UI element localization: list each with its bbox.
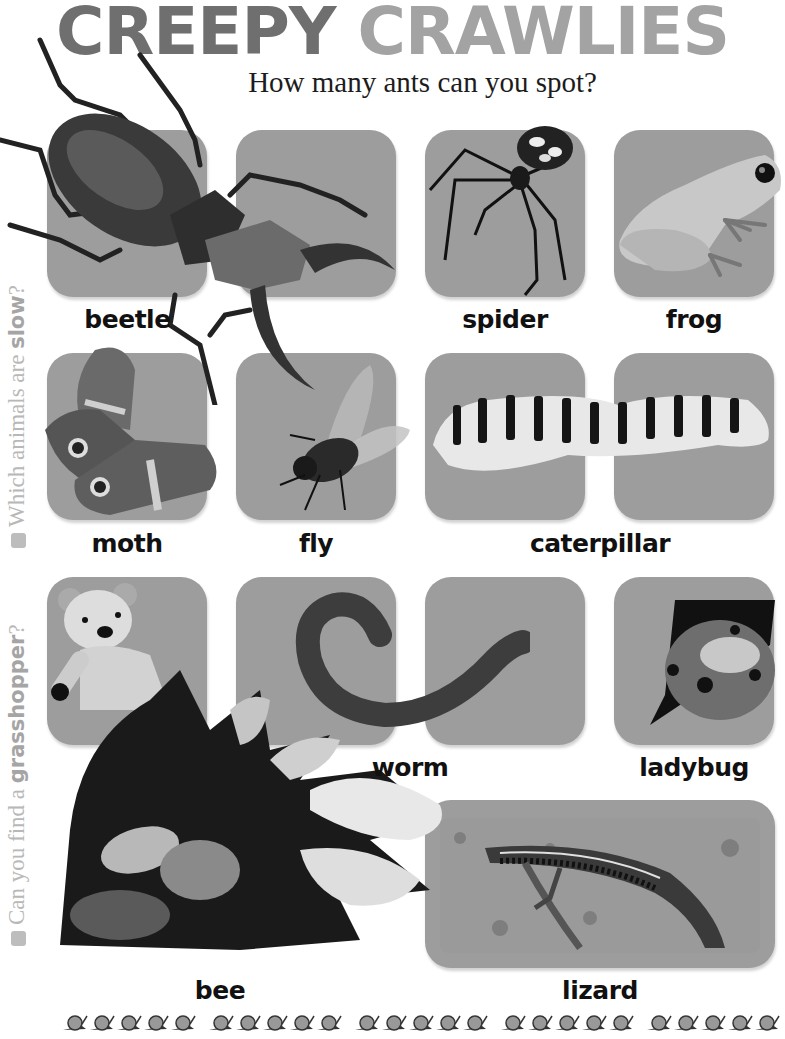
snail-icon bbox=[673, 1014, 699, 1032]
snail-icon bbox=[700, 1014, 726, 1032]
snail-icon bbox=[289, 1014, 315, 1032]
snail-icon bbox=[143, 1014, 169, 1032]
side-q-bold: grasshopper bbox=[5, 635, 29, 784]
snail-icon bbox=[646, 1014, 672, 1032]
snail-icon bbox=[754, 1014, 780, 1032]
snail-icon bbox=[62, 1014, 88, 1032]
label-worm: worm bbox=[330, 753, 490, 782]
snail-icon bbox=[354, 1014, 380, 1032]
snail-icon bbox=[727, 1014, 753, 1032]
fly-image bbox=[275, 360, 415, 520]
label-fly: fly bbox=[236, 529, 396, 558]
snail-icon bbox=[581, 1014, 607, 1032]
snail-icon bbox=[408, 1014, 434, 1032]
snail-icon bbox=[435, 1014, 461, 1032]
snail-group bbox=[646, 1014, 780, 1032]
snail-group bbox=[208, 1014, 342, 1032]
side-q-end: ? bbox=[4, 624, 29, 634]
snail-icon bbox=[316, 1014, 342, 1032]
snail-icon bbox=[116, 1014, 142, 1032]
bullet-square-icon bbox=[11, 931, 26, 946]
snail-icon bbox=[89, 1014, 115, 1032]
label-frog: frog bbox=[614, 305, 774, 334]
snail-icon bbox=[608, 1014, 634, 1032]
caterpillar-image bbox=[428, 380, 773, 480]
spider-image bbox=[425, 120, 590, 300]
snail-group bbox=[354, 1014, 488, 1032]
snail-icon bbox=[381, 1014, 407, 1032]
snail-icon bbox=[500, 1014, 526, 1032]
worm-image bbox=[295, 590, 530, 730]
snail-icon bbox=[527, 1014, 553, 1032]
snail-group bbox=[500, 1014, 634, 1032]
moth-image bbox=[40, 340, 225, 530]
snail-border bbox=[62, 1014, 780, 1032]
ladybug-image bbox=[645, 595, 780, 730]
label-ladybug: ladybug bbox=[614, 753, 774, 782]
label-beetle: beetle bbox=[65, 305, 190, 334]
label-moth: moth bbox=[47, 529, 207, 558]
side-question-grasshopper: Can you find a grasshopper? bbox=[4, 624, 30, 946]
snail-group bbox=[62, 1014, 196, 1032]
lizard-image bbox=[440, 818, 760, 953]
label-spider: spider bbox=[425, 305, 585, 334]
label-caterpillar: caterpillar bbox=[425, 529, 775, 558]
label-lizard: lizard bbox=[425, 976, 775, 1005]
snail-icon bbox=[554, 1014, 580, 1032]
label-bee: bee bbox=[140, 976, 300, 1005]
snail-icon bbox=[235, 1014, 261, 1032]
snail-icon bbox=[170, 1014, 196, 1032]
snail-icon bbox=[208, 1014, 234, 1032]
bullet-square-icon bbox=[11, 533, 26, 548]
snail-icon bbox=[262, 1014, 288, 1032]
side-q-text: Can you find a bbox=[4, 783, 29, 925]
frog-image bbox=[615, 145, 785, 285]
snail-icon bbox=[462, 1014, 488, 1032]
